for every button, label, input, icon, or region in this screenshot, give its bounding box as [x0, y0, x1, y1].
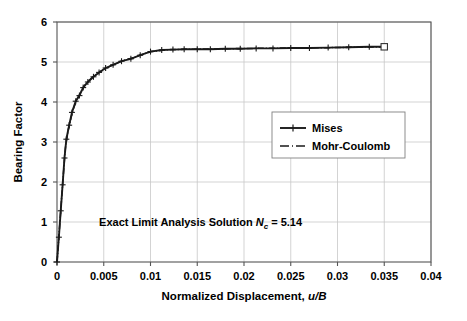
- x-tick-label: 0.01: [140, 270, 161, 282]
- x-axis-title-text: Normalized Displacement, u/B: [162, 290, 327, 302]
- x-tick-label: 0.025: [277, 270, 305, 282]
- y-tick-label: 5: [41, 56, 47, 68]
- x-tick-label: 0.04: [420, 270, 442, 282]
- end-point-square-marker: [381, 44, 387, 50]
- y-axis-tick-labels: 0123456: [41, 16, 48, 268]
- annotation-group: Exact Limit Analysis Solution Nc = 5.14: [99, 216, 303, 231]
- y-axis-title-text: Bearing Factor: [12, 101, 24, 183]
- y-tick-label: 4: [41, 96, 48, 108]
- x-tick-label: 0: [54, 270, 60, 282]
- legend-label-mises: Mises: [312, 122, 343, 134]
- x-axis-tick-labels: 00.0050.010.0150.020.0250.030.0350.04: [54, 270, 443, 282]
- y-axis-title: Bearing Factor: [12, 101, 24, 183]
- y-tick-label: 6: [41, 16, 47, 28]
- bearing-factor-chart: 00.0050.010.0150.020.0250.030.0350.04 01…: [0, 0, 467, 321]
- y-tick-label: 3: [41, 136, 47, 148]
- legend-label-mohr-coulomb: Mohr-Coulomb: [312, 140, 390, 152]
- y-tick-label: 0: [41, 256, 47, 268]
- chart-canvas: 00.0050.010.0150.020.0250.030.0350.04 01…: [0, 0, 467, 321]
- x-axis-title: Normalized Displacement, u/B: [162, 290, 327, 302]
- x-tick-label: 0.03: [327, 270, 348, 282]
- x-tick-label: 0.015: [183, 270, 211, 282]
- legend: MisesMohr-Coulomb: [272, 112, 405, 158]
- exact-limit-analysis-annotation: Exact Limit Analysis Solution Nc = 5.14: [99, 216, 303, 231]
- x-tick-label: 0.005: [90, 270, 118, 282]
- x-tick-label: 0.035: [370, 270, 398, 282]
- y-tick-label: 2: [41, 176, 47, 188]
- x-tick-label: 0.02: [233, 270, 254, 282]
- y-tick-label: 1: [41, 216, 47, 228]
